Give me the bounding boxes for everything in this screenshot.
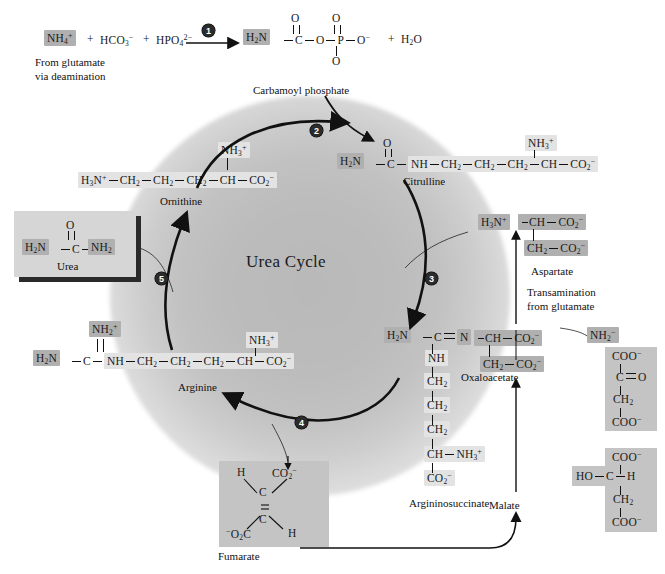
citrulline-label: Citrulline <box>403 176 445 187</box>
reactant-bicarbonate: HCO3− <box>100 34 134 48</box>
urea-cycle-figure: NH4+ + HCO3− + HPO42− 1 From glutamate v… <box>0 0 665 574</box>
chain-bond-1 <box>432 344 433 354</box>
aspartate-label: Aspartate <box>531 266 573 277</box>
water-molecule: H2O <box>401 34 422 47</box>
phosphate-single-bond <box>336 46 337 56</box>
transamination-note-line2: from glutamate <box>527 301 595 312</box>
chain-bond-4 <box>432 415 433 425</box>
arginine-label: Arginine <box>178 382 217 393</box>
step-badge-5[interactable]: 5 <box>155 272 168 285</box>
arginine-backbone: CNHCH2CH2CH2CHCO2− <box>70 355 294 369</box>
step-badge-2[interactable]: 2 <box>310 124 323 137</box>
reactant-ammonium: NH4+ <box>44 32 76 46</box>
transamination-nh2: NH2− <box>587 329 619 343</box>
carbamoyl-h2n: H2N <box>243 32 270 45</box>
malate-coo-top: COO− <box>612 451 642 464</box>
ornithine-label: Ornithine <box>160 196 202 207</box>
fumarate-to-malate-arrow <box>300 518 516 548</box>
carbamoyl-phosphate-label: Carbamoyl phosphate <box>253 85 349 96</box>
malate-ch2: CH2 <box>613 494 633 507</box>
carbamoyl-carbonyl-oxygen: O <box>291 13 300 25</box>
ornithine-structure: H3N+CH2CH2CH2CHCO2− <box>78 174 277 188</box>
aspartate-h3n: H3N+ <box>478 216 510 230</box>
chain-bond-6 <box>432 463 433 473</box>
urea-double-bond <box>68 231 75 240</box>
phosphate-oxygen-top: O <box>332 13 341 25</box>
malate-bond-1 <box>620 465 621 474</box>
oxaloacetate-bond-2 <box>620 386 621 395</box>
fumarate-label: Fumarate <box>218 551 260 562</box>
argininosuccinate-ch2-1: CH2 <box>424 376 450 389</box>
aspartate-bottom-row: CH2CO2− <box>524 242 588 256</box>
step-badge-1[interactable]: 1 <box>202 24 215 37</box>
aspartate-branch-bond <box>533 229 534 241</box>
argininosuccinate-ch-nh3: CHNH3+ <box>424 448 485 462</box>
argininosuccinate-ch2-3: CH2 <box>424 424 450 437</box>
malate-label: Malate <box>489 500 520 511</box>
argininosuccinate-ch2-2: CH2 <box>424 400 450 413</box>
step-badge-3[interactable]: 3 <box>425 272 438 285</box>
ornithine-amino-bond <box>227 158 228 170</box>
plus-sign-2: + <box>143 34 150 46</box>
urea-h2n: H2N <box>22 241 49 255</box>
glutamate-source-note-line2: via deamination <box>35 71 106 82</box>
citrulline-h2n: H2N <box>337 156 364 169</box>
aspartate-top-row: CHCO2− <box>518 216 586 230</box>
argininosuccinate-nh: NH <box>425 353 448 365</box>
argininosuccinate-label: Argininosuccinate <box>409 498 489 509</box>
argininosuccinate-aspartyl-bottom: CH2CO2− <box>480 358 544 372</box>
cycle-center-title: Urea Cycle <box>246 253 326 270</box>
arginine-h2n: H2N <box>33 353 60 366</box>
citrulline-amino-group: NH3+ <box>525 137 557 151</box>
argininosuccinate-c-eq-n: CN <box>421 332 471 344</box>
chain-bond-5 <box>432 439 433 449</box>
carbamoyl-backbone: COPO− <box>282 34 370 47</box>
oxaloacetate-coo-top: COO− <box>612 350 642 363</box>
step-badge-4[interactable]: 4 <box>295 416 308 429</box>
arginine-amino-group: NH3+ <box>246 334 278 348</box>
oxaloacetate-label: Oxaloacetate <box>461 372 518 383</box>
transamination-note-line1: Transamination <box>527 287 596 298</box>
urea-callout-box: O H2N C NH2 Urea <box>14 211 136 277</box>
citrulline-carbonyl-oxygen: O <box>383 138 392 150</box>
oxaloacetate-bond-3 <box>620 408 621 417</box>
aspartyl-branch-bond <box>489 345 490 357</box>
citrulline-backbone: CNHCH2CH2CH2CHCO2− <box>374 158 598 172</box>
citrulline-double-bond <box>385 149 392 157</box>
oxaloacetate-ch2: CH2 <box>613 394 633 407</box>
urea-label: Urea <box>57 260 78 272</box>
arginine-guanidinium-group: NH2+ <box>89 323 121 337</box>
oxaloacetate-c-eq-o: CO <box>616 372 646 384</box>
arginine-amino-bond <box>255 348 256 356</box>
oxaloacetate-bond-1 <box>620 364 621 373</box>
ornithine-amino-group: NH3+ <box>218 144 250 158</box>
chain-bond-3 <box>432 391 433 401</box>
citrulline-amino-bond <box>534 150 535 158</box>
plus-sign-1: + <box>87 34 94 46</box>
plus-sign-3: + <box>388 34 395 46</box>
malate-bond-2 <box>620 486 621 495</box>
malate-coo-bottom: COO− <box>612 516 642 529</box>
argininosuccinate-h2n: H2N <box>384 330 411 343</box>
chain-bond-2 <box>432 367 433 377</box>
glutamate-source-note-line1: From glutamate <box>35 57 105 68</box>
oxaloacetate-coo-bottom: COO− <box>612 416 642 429</box>
carbonyl-double-bond-1 <box>293 25 300 34</box>
argininosuccinate-aspartyl-top: CHCO2− <box>474 332 542 346</box>
argininosuccinate-co2: CO2− <box>424 472 455 486</box>
arginine-double-bond <box>97 339 104 352</box>
phosphate-oxygen-bottom: O <box>332 56 341 68</box>
malate-ho-c-h: HOCH <box>576 471 635 483</box>
fumarate-bond-lines <box>219 461 329 547</box>
urea-carbonyl-oxygen: O <box>66 219 75 231</box>
urea-nh2: NH2 <box>88 241 115 255</box>
reactant-phosphate: HPO42− <box>156 34 192 48</box>
phosphoryl-double-bond <box>334 25 341 34</box>
malate-bond-3 <box>620 508 621 517</box>
